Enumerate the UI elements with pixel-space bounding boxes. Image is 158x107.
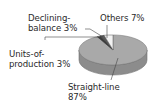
label-others-line1: Others 7% xyxy=(100,13,144,23)
label-declining-balance: Declining- balance 3% xyxy=(28,13,77,33)
label-straight-line: Straight-line 87% xyxy=(68,82,120,102)
label-others: Others 7% xyxy=(100,13,144,23)
label-units-line1: Units-of- xyxy=(9,49,70,59)
label-straight-line-line2: 87% xyxy=(68,92,120,102)
label-units-line2: production 3% xyxy=(9,59,70,69)
label-units-of-production: Units-of- production 3% xyxy=(9,49,70,69)
pie-chart: Declining- balance 3% Others 7% Units-of… xyxy=(0,0,158,107)
label-straight-line-line1: Straight-line xyxy=(68,82,120,92)
label-declining-balance-line2: balance 3% xyxy=(28,23,77,33)
label-declining-balance-line1: Declining- xyxy=(28,13,77,23)
